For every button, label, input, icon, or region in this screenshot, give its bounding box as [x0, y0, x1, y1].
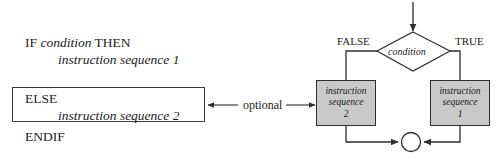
pseudocode-endif-keyword: ENDIF	[25, 130, 65, 144]
true-branch-connector	[450, 51, 460, 80]
false-merge-connector	[346, 126, 398, 142]
false-branch-connector	[346, 51, 377, 80]
process-box-sequence-1-line3: 1	[458, 109, 463, 120]
diagram-canvas: IF condition THEN instruction sequence 1…	[0, 0, 504, 160]
pseudocode-if-condition: condition	[40, 35, 91, 50]
pseudocode-then-keyword: THEN	[95, 35, 131, 50]
label-decision-condition: condition	[388, 47, 426, 57]
pseudocode-sequence-1: instruction sequence 1	[58, 53, 179, 67]
label-false: FALSE	[337, 36, 370, 47]
true-merge-connector	[424, 126, 460, 142]
pseudocode-if-line: IF condition THEN	[25, 36, 131, 50]
process-box-sequence-2-line1: instruction	[325, 86, 366, 97]
process-box-sequence-1-line2: sequence	[443, 97, 478, 108]
label-optional: optional	[240, 99, 285, 111]
pseudocode-if-keyword: IF	[25, 35, 37, 50]
label-true: TRUE	[455, 36, 484, 47]
process-box-sequence-1-line1: instruction	[439, 86, 480, 97]
pseudocode-else-keyword: ELSE	[25, 92, 57, 106]
process-box-sequence-1: instruction sequence 1	[430, 80, 490, 126]
process-box-sequence-2-line2: sequence	[329, 97, 364, 108]
process-box-sequence-2: instruction sequence 2	[316, 80, 376, 126]
pseudocode-sequence-2: instruction sequence 2	[58, 109, 179, 123]
connector-layer	[0, 0, 504, 160]
process-box-sequence-2-line3: 2	[344, 109, 349, 120]
merge-circle-node	[402, 133, 421, 152]
